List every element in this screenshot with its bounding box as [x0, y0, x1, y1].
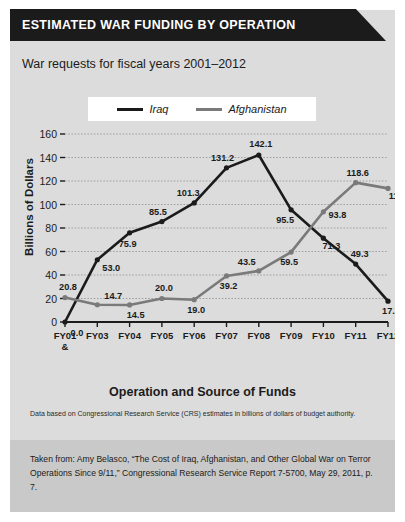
data-point-label: 95.5	[276, 215, 294, 225]
data-point-label: 101.3	[177, 188, 200, 198]
data-point-label: 142.1	[249, 139, 272, 149]
data-point	[95, 302, 100, 307]
data-point	[127, 302, 132, 307]
legend-swatch-afghanistan	[196, 108, 222, 111]
legend-item-iraq: Iraq	[117, 103, 168, 115]
y-axis-tick-label: 20	[45, 293, 57, 305]
data-point-label: 75.9	[119, 239, 137, 249]
chart-subtitle: War requests for fiscal years 2001–2012	[22, 57, 246, 71]
legend-label-afghanistan: Afghanistan	[228, 103, 286, 115]
data-point	[62, 295, 67, 300]
plot-area: Billions of Dollars 02040608010012014016…	[10, 126, 395, 351]
y-axis-tick-label: 100	[39, 199, 57, 211]
y-axis-tick-label: 0	[51, 316, 57, 328]
x-axis-tick-label: FY08	[247, 330, 270, 341]
data-point-label: 0.0	[71, 328, 84, 338]
data-point	[159, 219, 164, 224]
x-axis-tick-label: FY11	[345, 330, 368, 341]
data-point	[353, 261, 358, 266]
data-point-label: 14.7	[104, 291, 122, 301]
x-axis-tick-label: FY03	[86, 330, 109, 341]
data-point	[385, 299, 390, 304]
data-point-label: 85.5	[149, 207, 167, 217]
x-axis-title: Operation and Source of Funds	[10, 385, 395, 399]
data-point	[385, 186, 390, 191]
y-axis-tick-label: 120	[39, 175, 57, 187]
x-axis-tick-label: FY10	[312, 330, 335, 341]
x-axis-tick-label: FY07	[215, 330, 238, 341]
data-point	[256, 268, 261, 273]
data-point	[289, 249, 294, 254]
data-point	[289, 207, 294, 212]
chart-legend: Iraq Afghanistan	[88, 97, 316, 121]
data-point-label: 93.8	[328, 210, 346, 220]
data-point-label: 71.3	[322, 241, 340, 251]
data-point	[159, 296, 164, 301]
data-point	[224, 273, 229, 278]
data-point	[192, 297, 197, 302]
x-axis-tick-label: FY09	[280, 330, 303, 341]
citation-text: Taken from: Amy Belasco, “The Cost of Ir…	[30, 452, 378, 495]
y-axis-tick-label: 160	[39, 128, 57, 140]
data-point-label: 53.0	[102, 263, 120, 273]
data-point	[62, 319, 67, 324]
y-axis-tick-label: 140	[39, 152, 57, 164]
data-source-note: Data based on Congressional Research Ser…	[30, 409, 360, 420]
data-point-label: 131.2	[211, 153, 234, 163]
data-point-label: 20.8	[59, 282, 77, 292]
data-point	[353, 180, 358, 185]
x-axis-tick-label: FY12	[377, 330, 395, 341]
x-axis-tick-label: FY05	[151, 330, 174, 341]
citation-block: Taken from: Amy Belasco, “The Cost of Ir…	[10, 440, 395, 512]
data-point-label: 49.3	[351, 249, 369, 259]
data-point-label: 113.7	[389, 191, 395, 201]
chart-svg: 020406080100120140160FY01&FY02FY03FY04FY…	[10, 126, 395, 351]
data-point-label: 19.0	[187, 305, 205, 315]
data-point	[127, 230, 132, 235]
page-title: ESTIMATED WAR FUNDING BY OPERATION	[10, 18, 296, 32]
data-point-label: 14.5	[127, 310, 145, 320]
data-point-label: 43.5	[238, 257, 256, 267]
chart-figure: ESTIMATED WAR FUNDING BY OPERATION War r…	[0, 0, 405, 522]
data-point	[256, 152, 261, 157]
data-point-label: 17.7	[382, 306, 395, 316]
data-point	[321, 209, 326, 214]
data-point-label: 118.6	[346, 168, 368, 178]
x-axis-tick-label: &	[62, 341, 69, 351]
header-banner: ESTIMATED WAR FUNDING BY OPERATION	[10, 9, 386, 41]
x-axis-tick-label: FY04	[118, 330, 141, 341]
legend-item-afghanistan: Afghanistan	[196, 103, 286, 115]
data-point	[192, 200, 197, 205]
data-point-label: 39.2	[220, 281, 238, 291]
y-axis-tick-label: 40	[45, 269, 57, 281]
data-point-label: 59.5	[280, 257, 298, 267]
y-axis-tick-label: 80	[45, 222, 57, 234]
y-axis-tick-label: 60	[45, 246, 57, 258]
legend-label-iraq: Iraq	[149, 103, 168, 115]
x-axis-tick-label: FY06	[183, 330, 206, 341]
data-point-label: 20.0	[155, 283, 173, 293]
data-point	[95, 257, 100, 262]
legend-swatch-iraq	[117, 108, 143, 111]
data-point	[321, 236, 326, 241]
data-point	[224, 165, 229, 170]
